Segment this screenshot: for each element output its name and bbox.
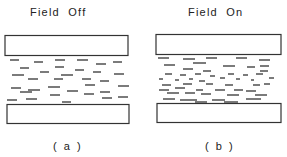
top-plate (5, 36, 128, 56)
molecules (158, 58, 274, 102)
panel-field-off: Field Off (0, 0, 143, 157)
molecules (7, 60, 129, 102)
bottom-plate (7, 105, 129, 124)
panel-field-on: Field On (143, 0, 287, 157)
top-plate (156, 35, 281, 55)
panel-b-label: ( b ) (205, 140, 235, 152)
field-off-diagram (0, 0, 143, 157)
panel-a-label: ( a ) (53, 140, 83, 152)
field-on-diagram (143, 0, 287, 157)
bottom-plate (157, 104, 281, 123)
